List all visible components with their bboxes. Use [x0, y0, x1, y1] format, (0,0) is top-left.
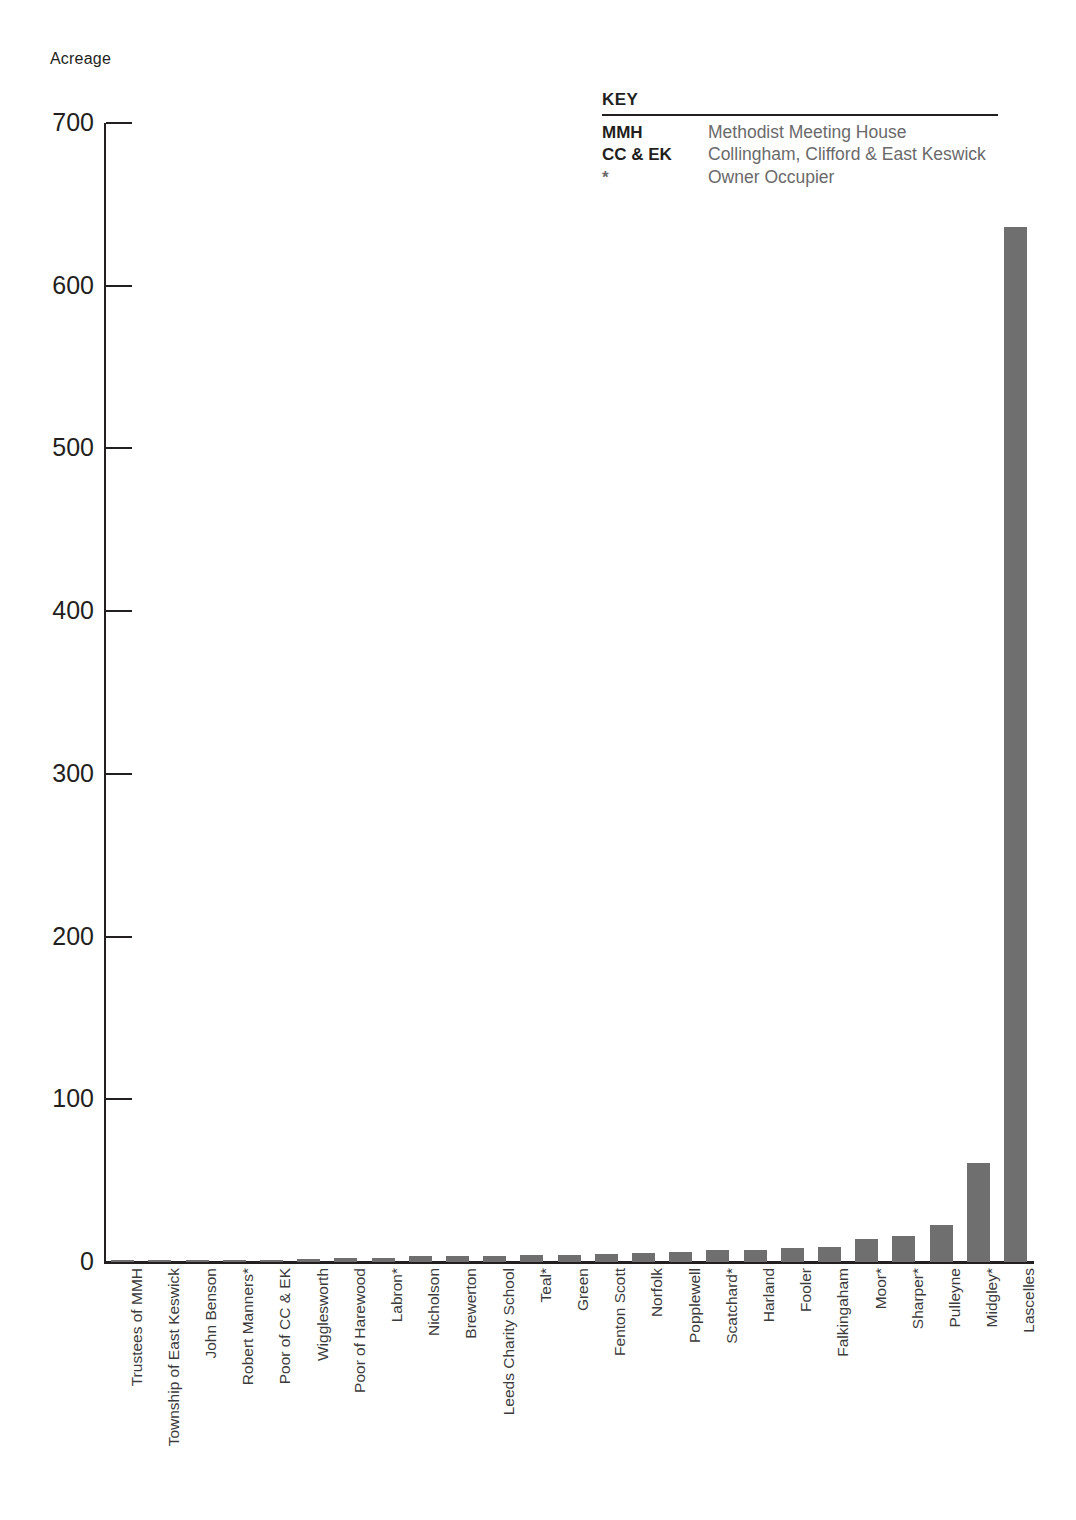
- bar: [260, 1260, 283, 1262]
- y-tick-label-300: 300: [42, 761, 94, 786]
- key-row: *Owner Occupier: [602, 166, 1002, 189]
- y-tick-label-wrap-500: 500: [42, 435, 94, 460]
- x-axis-label: Fooler: [798, 1268, 814, 1312]
- x-axis-label: Township of East Keswick: [166, 1268, 182, 1446]
- bar: [855, 1239, 878, 1262]
- x-axis-label: Poor of CC & EK: [277, 1268, 293, 1384]
- x-axis-label: Robert Manners*: [240, 1268, 256, 1385]
- bar: [930, 1225, 953, 1262]
- key-description: Methodist Meeting House: [708, 121, 906, 143]
- bar: [372, 1258, 395, 1262]
- bar: [446, 1256, 469, 1262]
- bar: [818, 1247, 841, 1262]
- bar: [632, 1253, 655, 1262]
- x-axis-label: Moor*: [873, 1268, 889, 1309]
- y-tick-label-wrap-100: 100: [42, 1086, 94, 1111]
- bar: [595, 1254, 618, 1262]
- acreage-bar-chart: Acreage 7006005004003002001000 Trustees …: [0, 0, 1076, 1520]
- x-axis-label: Midgley*: [984, 1268, 1000, 1327]
- x-axis-label: Nicholson: [426, 1268, 442, 1336]
- x-axis-label: Falkingaham: [835, 1268, 851, 1357]
- bar: [967, 1163, 990, 1262]
- y-tick-label-700: 700: [42, 110, 94, 135]
- y-tick-label-100: 100: [42, 1086, 94, 1111]
- bar: [334, 1258, 357, 1262]
- bar: [223, 1260, 246, 1262]
- bar: [297, 1259, 320, 1262]
- x-axis-label: Labron*: [389, 1268, 405, 1322]
- x-axis-label: Harland: [761, 1268, 777, 1322]
- key-title: KEY: [602, 90, 1002, 114]
- bar: [706, 1250, 729, 1262]
- y-tick-label-wrap-400: 400: [42, 598, 94, 623]
- x-axis-label: Fenton Scott: [612, 1268, 628, 1356]
- key-row: MMHMethodist Meeting House: [602, 121, 1002, 144]
- x-axis-label: Lascelles: [1021, 1268, 1037, 1333]
- key-abbreviation: CC & EK: [602, 144, 708, 166]
- bar: [558, 1255, 581, 1262]
- x-axis-label: Norfolk: [649, 1268, 665, 1317]
- bar: [1004, 227, 1027, 1262]
- key-divider: [602, 114, 998, 116]
- y-tick-label-200: 200: [42, 924, 94, 949]
- x-axis-label: Popplewell: [687, 1268, 703, 1343]
- y-tick-label-wrap-700: 700: [42, 110, 94, 135]
- bar: [669, 1252, 692, 1262]
- key-abbreviation: MMH: [602, 122, 708, 144]
- x-axis-label: Scatchard*: [724, 1268, 740, 1344]
- y-tick-label-0: 0: [42, 1249, 94, 1274]
- x-axis-label: Green: [575, 1268, 591, 1311]
- bar: [892, 1236, 915, 1262]
- y-tick-label-wrap-600: 600: [42, 273, 94, 298]
- bar: [781, 1248, 804, 1262]
- x-axis-label: Leeds Charity School: [501, 1268, 517, 1415]
- x-axis-label: Brewerton: [463, 1268, 479, 1339]
- x-axis-label: Pulleyne: [947, 1268, 963, 1327]
- key-description: Owner Occupier: [708, 166, 834, 188]
- x-axis-label: Teal*: [538, 1268, 554, 1302]
- key-abbreviation: *: [602, 167, 708, 189]
- bar: [744, 1250, 767, 1262]
- x-axis-label: Sharper*: [910, 1268, 926, 1329]
- key-description: Collingham, Clifford & East Keswick: [708, 143, 986, 165]
- y-tick-label-400: 400: [42, 598, 94, 623]
- y-tick-label-600: 600: [42, 273, 94, 298]
- key-legend: KEY MMHMethodist Meeting HouseCC & EKCol…: [602, 90, 1002, 189]
- key-rows: MMHMethodist Meeting HouseCC & EKColling…: [602, 121, 1002, 189]
- bar: [483, 1256, 506, 1262]
- y-tick-label-wrap-300: 300: [42, 761, 94, 786]
- x-axis-label: Trustees of MMH: [129, 1268, 145, 1386]
- x-axis-label: Wigglesworth: [315, 1268, 331, 1361]
- bar: [111, 1260, 134, 1262]
- x-axis-label: John Benson: [203, 1268, 219, 1359]
- bar: [520, 1255, 543, 1262]
- y-axis-title: Acreage: [50, 50, 111, 68]
- y-tick-label-wrap-200: 200: [42, 924, 94, 949]
- key-row: CC & EKCollingham, Clifford & East Keswi…: [602, 143, 1002, 166]
- y-tick-label-500: 500: [42, 435, 94, 460]
- bar-series: [104, 123, 1034, 1262]
- x-axis-category-labels: Trustees of MMHTownship of East KeswickJ…: [104, 1268, 1034, 1498]
- bar: [409, 1256, 432, 1262]
- bar: [148, 1260, 171, 1262]
- y-tick-label-wrap-0: 0: [42, 1249, 94, 1274]
- bar: [186, 1260, 209, 1262]
- x-axis-label: Poor of Harewood: [352, 1268, 368, 1393]
